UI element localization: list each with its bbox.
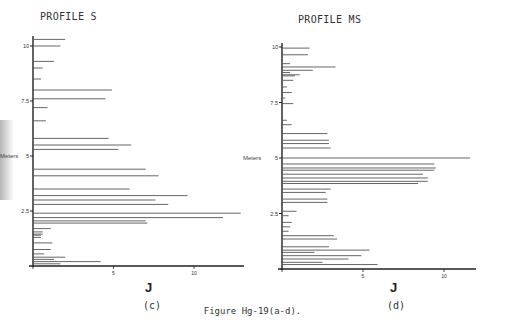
figure-caption: Figure Hg-19(a-d). bbox=[0, 306, 505, 316]
x-tick-label: 10 bbox=[441, 273, 447, 279]
panel-c-plot: 2.557.510510 bbox=[21, 36, 244, 276]
y-tick-label: 10 bbox=[272, 44, 278, 50]
x-tick-label: 5 bbox=[112, 270, 115, 276]
x-tick-label: 5 bbox=[362, 273, 365, 279]
x-tick-label: 10 bbox=[191, 270, 197, 276]
panel-d-xlabel: J bbox=[390, 280, 397, 295]
panel-d-plot: 2.557.510510 bbox=[270, 43, 476, 279]
y-tick-label: 5 bbox=[26, 153, 29, 159]
panel-c-xlabel: J bbox=[145, 280, 152, 295]
y-tick-label: 7.5 bbox=[270, 100, 278, 106]
panel-c-ylabel: Meters bbox=[0, 153, 18, 159]
chart-area: 2.557.5105102.557.510510 bbox=[0, 0, 505, 331]
y-tick-label: 2.5 bbox=[21, 208, 29, 214]
y-tick-label: 10 bbox=[23, 43, 29, 49]
panel-d-ylabel: Meters bbox=[243, 155, 261, 161]
y-tick-label: 5 bbox=[275, 155, 278, 161]
y-tick-label: 7.5 bbox=[21, 98, 29, 104]
y-tick-label: 2.5 bbox=[270, 211, 278, 217]
